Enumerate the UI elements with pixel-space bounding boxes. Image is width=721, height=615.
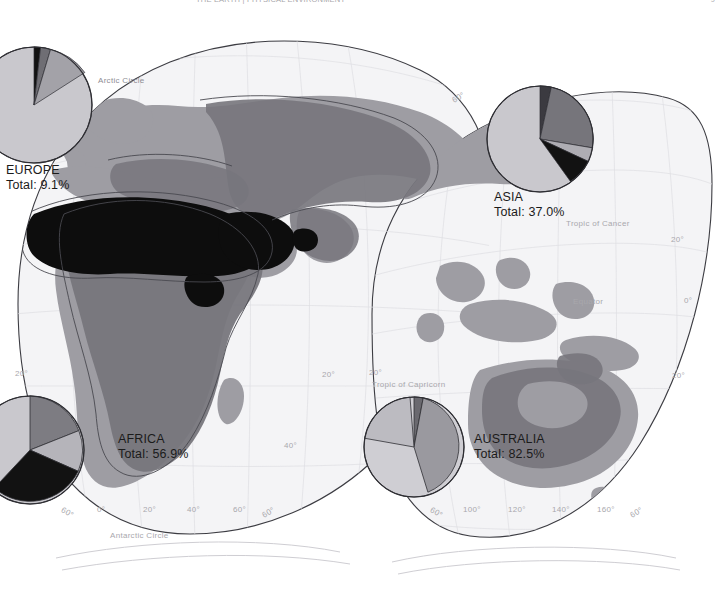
pie-title-africa: AFRICA bbox=[118, 432, 189, 447]
pie-label-asia: ASIA Total: 37.0% bbox=[494, 190, 565, 219]
pie-chart-europe[interactable] bbox=[0, 41, 112, 171]
pie-label-africa: AFRICA Total: 56.9% bbox=[118, 432, 189, 461]
pie-slice-australia-2 bbox=[365, 397, 414, 447]
pie-chart-australia-svg bbox=[363, 394, 467, 502]
pie-title-asia: ASIA bbox=[494, 190, 565, 205]
page-header: THE EARTH | PHYSICAL ENVIRONMENT 9 bbox=[0, 0, 721, 7]
pie-total-europe: Total: 9.1% bbox=[6, 178, 70, 193]
pie-label-europe: EUROPE Total: 9.1% bbox=[6, 163, 70, 192]
pie-chart-asia[interactable] bbox=[484, 83, 596, 195]
pie-title-europe: EUROPE bbox=[6, 163, 70, 178]
pie-total-asia: Total: 37.0% bbox=[494, 205, 565, 220]
page-number: 9 bbox=[711, 0, 715, 4]
antarctica-layer bbox=[56, 542, 680, 574]
pie-total-australia: Total: 82.5% bbox=[474, 447, 545, 462]
pie-label-australia: AUSTRALIA Total: 82.5% bbox=[474, 432, 545, 461]
pie-chart-australia[interactable] bbox=[363, 394, 467, 502]
map-page: THE EARTH | PHYSICAL ENVIRONMENT 9 bbox=[0, 0, 721, 615]
pie-total-africa: Total: 56.9% bbox=[118, 447, 189, 462]
running-head: THE EARTH | PHYSICAL ENVIRONMENT bbox=[196, 0, 345, 4]
pie-chart-europe-svg bbox=[0, 41, 112, 171]
pie-chart-africa-svg bbox=[0, 393, 108, 511]
pie-chart-asia-svg bbox=[484, 83, 596, 195]
pie-title-australia: AUSTRALIA bbox=[474, 432, 545, 447]
pie-chart-africa[interactable] bbox=[0, 393, 108, 511]
